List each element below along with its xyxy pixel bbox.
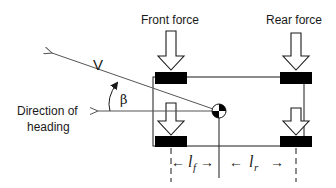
lr-subscript: r <box>254 161 259 173</box>
rear-left-wheel <box>280 72 312 84</box>
velocity-label: V <box>93 56 103 73</box>
svg-text:→: → <box>270 155 284 170</box>
lf-dimension: ← l f → <box>171 153 214 173</box>
lr-dimension: ← l r → <box>229 153 284 173</box>
svg-text:→: → <box>200 155 214 170</box>
rear-force-label: Rear force <box>266 13 322 27</box>
heading-label-line2: heading <box>27 120 70 134</box>
slip-angle-arc <box>109 83 117 111</box>
lf-subscript: f <box>193 161 198 173</box>
rear-lower-force-arrow-icon <box>283 108 309 135</box>
rear-force-arrow-icon <box>283 33 309 70</box>
front-force-label: Front force <box>141 13 199 27</box>
heading-label-line1: Direction of <box>17 104 78 118</box>
front-lower-force-arrow-icon <box>158 103 184 135</box>
svg-text:←: ← <box>229 155 243 170</box>
slip-angle-label: β <box>120 92 128 107</box>
front-right-wheel <box>155 136 187 147</box>
svg-text:←: ← <box>171 155 185 170</box>
velocity-vector <box>52 53 216 110</box>
bicycle-model-diagram: Front force Rear force V β Direction of … <box>0 0 336 188</box>
rear-right-wheel <box>280 136 312 147</box>
front-force-arrow-icon <box>158 31 184 70</box>
front-left-wheel <box>155 72 187 84</box>
center-of-gravity-icon <box>212 104 226 118</box>
